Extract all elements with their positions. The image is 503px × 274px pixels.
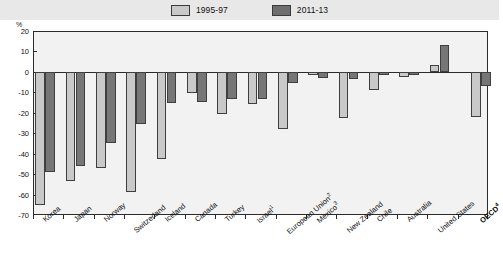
y-axis-tick-label: -20 xyxy=(3,108,29,117)
bar-1995-97[interactable] xyxy=(157,72,167,159)
bar-2011-13[interactable] xyxy=(440,45,450,72)
y-axis-tick-label: 20 xyxy=(3,27,29,36)
bar-2011-13[interactable] xyxy=(481,72,491,86)
bar-group xyxy=(308,31,328,215)
bar-1995-97[interactable] xyxy=(217,72,227,114)
bar-1995-97[interactable] xyxy=(308,72,318,75)
bar-2011-13[interactable] xyxy=(318,72,328,78)
bar-group xyxy=(471,31,491,215)
bar-2011-13[interactable] xyxy=(258,72,268,100)
y-axis-tick-label: 10 xyxy=(3,47,29,56)
bar-1995-97[interactable] xyxy=(369,72,379,90)
bar-2011-13[interactable] xyxy=(197,72,207,102)
bar-2011-13[interactable] xyxy=(76,72,86,166)
bar-group xyxy=(187,31,207,215)
bar-group xyxy=(248,31,268,215)
bar-group xyxy=(217,31,237,215)
bar-group xyxy=(399,31,419,215)
bar-group xyxy=(126,31,146,215)
bar-2011-13[interactable] xyxy=(227,72,237,100)
y-axis-tick-label: -60 xyxy=(3,190,29,199)
legend-swatch-icon xyxy=(272,5,291,16)
bar-2011-13[interactable] xyxy=(379,72,389,75)
y-axis-tick-label: 0 xyxy=(3,67,29,76)
bar-1995-97[interactable] xyxy=(96,72,106,168)
y-axis-tick-label: -10 xyxy=(3,88,29,97)
bar-2011-13[interactable] xyxy=(45,72,55,172)
bar-2011-13[interactable] xyxy=(106,72,116,144)
bar-group xyxy=(430,31,450,215)
bar-2011-13[interactable] xyxy=(136,72,146,124)
bar-1995-97[interactable] xyxy=(35,72,45,205)
legend-swatch-icon xyxy=(171,5,190,16)
legend-item-2011-13[interactable]: 2011-13 xyxy=(272,5,328,16)
chart-legend: 1995-97 2011-13 xyxy=(0,0,499,20)
bar-1995-97[interactable] xyxy=(471,72,481,117)
bar-group xyxy=(339,31,359,215)
bar-group xyxy=(35,31,55,215)
bar-1995-97[interactable] xyxy=(430,65,440,72)
bar-1995-97[interactable] xyxy=(339,72,349,118)
bar-group xyxy=(278,31,298,215)
bar-group xyxy=(66,31,86,215)
legend-item-1995-97[interactable]: 1995-97 xyxy=(171,5,228,16)
bar-1995-97[interactable] xyxy=(399,72,409,77)
y-axis-tick-label: -40 xyxy=(3,149,29,158)
bar-series-container xyxy=(33,31,488,215)
bar-1995-97[interactable] xyxy=(248,72,258,104)
bar-2011-13[interactable] xyxy=(167,72,177,103)
bar-2011-13[interactable] xyxy=(349,72,359,79)
legend-label: 2011-13 xyxy=(297,5,328,15)
bar-group xyxy=(157,31,177,215)
bar-1995-97[interactable] xyxy=(126,72,136,193)
legend-label: 1995-97 xyxy=(196,5,228,15)
y-axis-tick-label: -30 xyxy=(3,129,29,138)
bar-1995-97[interactable] xyxy=(187,72,197,93)
bar-group xyxy=(369,31,389,215)
bar-2011-13[interactable] xyxy=(288,72,298,83)
bar-1995-97[interactable] xyxy=(278,72,288,129)
x-axis-labels: KoreaJapanNorwaySwitzerlandIcelandCanada… xyxy=(0,216,499,274)
y-axis-tick-label: -50 xyxy=(3,170,29,179)
bar-2011-13[interactable] xyxy=(409,72,419,75)
bar-1995-97[interactable] xyxy=(66,72,76,181)
bar-group xyxy=(96,31,116,215)
